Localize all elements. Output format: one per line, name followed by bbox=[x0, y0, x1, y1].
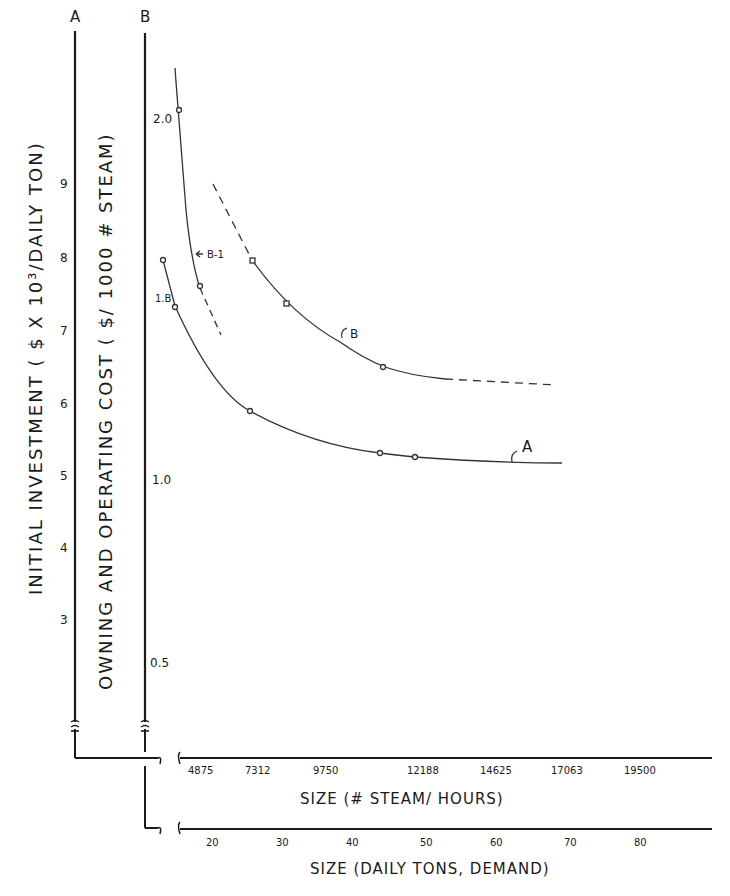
svg-text:70: 70 bbox=[564, 837, 577, 848]
axis-b-name: B bbox=[140, 8, 151, 26]
svg-text:12188: 12188 bbox=[407, 765, 439, 776]
chart-canvas: A B 9 8 7 6 5 4 3 2.0 1.B 1.0 0.5 INITIA… bbox=[0, 0, 730, 896]
svg-text:80: 80 bbox=[634, 837, 647, 848]
svg-text:50: 50 bbox=[420, 837, 433, 848]
axis-a-name: A bbox=[70, 8, 81, 26]
svg-text:4875: 4875 bbox=[188, 765, 213, 776]
svg-text:7: 7 bbox=[60, 324, 68, 338]
svg-text:5: 5 bbox=[60, 469, 68, 483]
axis-a-ticks: 9 8 7 6 5 4 3 bbox=[60, 177, 68, 627]
svg-text:8: 8 bbox=[60, 251, 68, 265]
svg-text:3: 3 bbox=[60, 613, 68, 627]
curve-b1-label: B-1 bbox=[207, 249, 224, 260]
svg-text:9750: 9750 bbox=[313, 765, 338, 776]
axis-b-ticks: 2.0 1.B 1.0 0.5 bbox=[150, 112, 172, 670]
svg-text:0.5: 0.5 bbox=[150, 656, 169, 670]
curve-b bbox=[213, 184, 556, 385]
svg-text:40: 40 bbox=[346, 837, 359, 848]
svg-text:17063: 17063 bbox=[551, 765, 583, 776]
curve-a bbox=[161, 258, 563, 464]
curve-b1 bbox=[175, 68, 221, 335]
axis-b bbox=[141, 33, 161, 834]
curve-a-label: A bbox=[522, 438, 533, 456]
x-axis-steam bbox=[179, 752, 713, 764]
axis-a-label: INITIAL INVESTMENT ( $ X 10³/DAILY TON) bbox=[25, 141, 46, 595]
svg-text:14625: 14625 bbox=[480, 765, 512, 776]
x-axis-steam-ticks: 4875 7312 9750 12188 14625 17063 19500 bbox=[188, 765, 656, 776]
svg-text:20: 20 bbox=[206, 837, 219, 848]
svg-text:9: 9 bbox=[60, 177, 68, 191]
curve-b-label: B bbox=[350, 327, 358, 341]
svg-text:7312: 7312 bbox=[245, 765, 270, 776]
svg-text:6: 6 bbox=[60, 397, 68, 411]
svg-text:19500: 19500 bbox=[624, 765, 656, 776]
x-axis-tons-ticks: 20 30 40 50 60 70 80 bbox=[206, 837, 647, 848]
x-axis-tons bbox=[179, 822, 713, 834]
x-axis-tons-label: SIZE (DAILY TONS, DEMAND) bbox=[310, 860, 550, 878]
axis-b-label: OWNING AND OPERATING COST ( $/ 1000 # ST… bbox=[95, 132, 116, 690]
svg-text:60: 60 bbox=[490, 837, 503, 848]
svg-text:1.B: 1.B bbox=[155, 293, 172, 304]
svg-text:4: 4 bbox=[60, 541, 68, 555]
svg-text:2.0: 2.0 bbox=[153, 112, 172, 126]
svg-text:30: 30 bbox=[276, 837, 289, 848]
x-axis-steam-label: SIZE (# STEAM/ HOURS) bbox=[300, 790, 504, 808]
svg-text:1.0: 1.0 bbox=[152, 473, 171, 487]
